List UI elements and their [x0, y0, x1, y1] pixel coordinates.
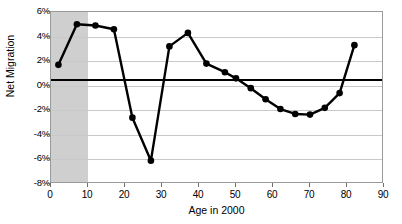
- data-point-marker: [74, 21, 81, 28]
- series-net-migration: [51, 12, 384, 184]
- x-axis-tick-mark: [383, 183, 384, 187]
- x-axis-title: Age in 2000: [50, 204, 383, 216]
- x-axis-tick-label: 80: [326, 189, 366, 200]
- data-line-layer: [51, 12, 382, 182]
- data-line: [58, 24, 354, 160]
- x-axis-tick-label: 30: [141, 189, 181, 200]
- data-point-marker: [322, 105, 329, 112]
- data-point-marker: [262, 96, 269, 103]
- y-axis-tick-label: -8%: [4, 178, 50, 188]
- data-point-marker: [336, 90, 343, 97]
- x-axis-tick-label: 90: [363, 189, 402, 200]
- data-point-marker: [307, 111, 314, 118]
- x-axis-tick-label: 20: [104, 189, 144, 200]
- x-axis-tick-mark: [124, 183, 125, 187]
- data-point-marker: [277, 106, 284, 113]
- data-point-marker: [233, 75, 240, 82]
- data-point-marker: [111, 26, 118, 33]
- x-axis-tick-mark: [50, 183, 51, 187]
- data-point-marker: [166, 43, 173, 50]
- x-axis-tick-mark: [309, 183, 310, 187]
- data-point-marker: [185, 30, 192, 37]
- data-point-marker: [148, 157, 155, 164]
- x-axis-tick-mark: [346, 183, 347, 187]
- x-axis-tick-mark: [198, 183, 199, 187]
- data-point-marker: [129, 114, 136, 121]
- x-axis-tick-label: 10: [67, 189, 107, 200]
- data-point-marker: [55, 62, 62, 69]
- y-axis-tick-label: -6%: [4, 154, 50, 164]
- x-axis-tick-mark: [235, 183, 236, 187]
- data-point-marker: [248, 85, 255, 92]
- data-point-marker: [222, 69, 229, 76]
- x-axis-tick-mark: [272, 183, 273, 187]
- x-axis-tick-label: 50: [215, 189, 255, 200]
- data-point-marker: [203, 60, 210, 67]
- data-point-marker: [292, 111, 299, 118]
- data-point-marker: [351, 42, 358, 49]
- plot-area: [50, 11, 383, 183]
- x-axis-tick-mark: [87, 183, 88, 187]
- x-axis-tick-label: 0: [30, 189, 70, 200]
- net-migration-chart: 6%4%2%0%-2%-4%-6%-8% Net Migration 01020…: [0, 0, 402, 224]
- x-axis-tick-label: 70: [289, 189, 329, 200]
- x-axis-tick-mark: [161, 183, 162, 187]
- x-axis: 0102030405060708090: [50, 183, 383, 223]
- data-point-marker: [92, 22, 99, 29]
- x-axis-tick-label: 60: [252, 189, 292, 200]
- y-axis-title: Net Migration: [4, 0, 16, 136]
- x-axis-tick-label: 40: [178, 189, 218, 200]
